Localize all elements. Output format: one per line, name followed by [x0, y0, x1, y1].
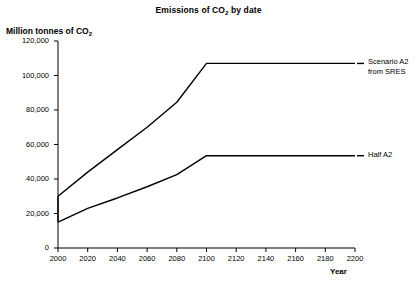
y-tick-label: 80,000	[5, 105, 49, 114]
x-tick-label: 2200	[338, 254, 372, 263]
series-line-half-a2	[58, 156, 355, 222]
chart-container: Emissions of CO2 by date Million tonnes …	[0, 0, 417, 291]
series-label-line-1: Half A2	[368, 150, 392, 160]
series-line-scenario-a2	[58, 63, 355, 196]
series-label-scenario-a2: Scenario A2from SRES	[368, 57, 408, 77]
y-tick-label: 100,000	[5, 71, 49, 80]
y-tick-label: 0	[5, 243, 49, 252]
y-tick-label: 120,000	[5, 36, 49, 45]
y-tick-label: 20,000	[5, 209, 49, 218]
axes	[58, 41, 355, 248]
y-tick-label: 40,000	[5, 174, 49, 183]
series-label-line-1: Scenario A2	[368, 57, 408, 67]
series-label-line-2: from SRES	[368, 67, 408, 77]
series-label-half-a2: Half A2	[368, 150, 392, 160]
y-tick-label: 60,000	[5, 140, 49, 149]
plot-area	[0, 0, 417, 291]
x-tick-marks	[58, 248, 355, 252]
series-lines	[58, 63, 355, 222]
legend-line-swatches	[357, 63, 364, 155]
